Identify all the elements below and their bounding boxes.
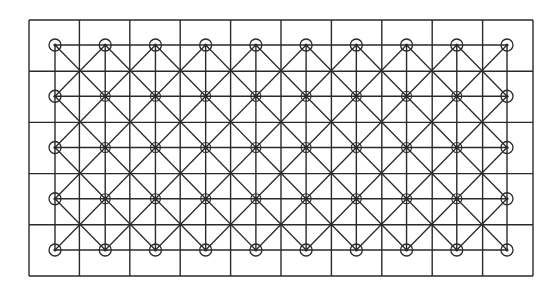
node-hub: [405, 43, 408, 46]
node-hub: [355, 248, 358, 251]
node-hub: [204, 94, 208, 98]
node-hub: [305, 43, 308, 46]
node-hub: [254, 94, 258, 98]
node-hub: [405, 94, 409, 98]
node-hub: [204, 197, 208, 201]
node-hub: [455, 94, 459, 98]
lattice-diagram: [0, 0, 556, 298]
node-hub: [505, 248, 508, 251]
node-hub: [153, 94, 157, 98]
node-hub: [304, 146, 308, 150]
node-hub: [204, 43, 207, 46]
node-hub: [354, 146, 358, 150]
node-hub: [154, 248, 157, 251]
node-hub: [304, 197, 308, 201]
node-hub: [204, 248, 207, 251]
node-hub: [254, 248, 257, 251]
node-hub: [455, 146, 459, 150]
node-hub: [53, 146, 56, 149]
node-hub: [354, 197, 358, 201]
node-hub: [154, 43, 157, 46]
node-hub: [304, 94, 308, 98]
node-hub: [505, 95, 508, 98]
node-hub: [355, 43, 358, 46]
node-hub: [254, 197, 258, 201]
node-hub: [305, 248, 308, 251]
node-hub: [455, 197, 459, 201]
node-hub: [254, 146, 258, 150]
node-hub: [204, 146, 208, 150]
node-hub: [53, 43, 56, 46]
node-hub: [103, 197, 107, 201]
node-hub: [153, 146, 157, 150]
node-hub: [405, 197, 409, 201]
node-hub: [405, 248, 408, 251]
node-hub: [153, 197, 157, 201]
node-hub: [505, 146, 508, 149]
node-hub: [405, 146, 409, 150]
node-hub: [104, 43, 107, 46]
node-hub: [53, 197, 56, 200]
node-hub: [505, 43, 508, 46]
node-hub: [354, 94, 358, 98]
node-hub: [455, 248, 458, 251]
node-hub: [254, 43, 257, 46]
node-hub: [104, 248, 107, 251]
node-hub: [455, 43, 458, 46]
node-hub: [53, 248, 56, 251]
node-hub: [103, 94, 107, 98]
node-hub: [505, 197, 508, 200]
node-hub: [53, 95, 56, 98]
node-hub: [103, 146, 107, 150]
